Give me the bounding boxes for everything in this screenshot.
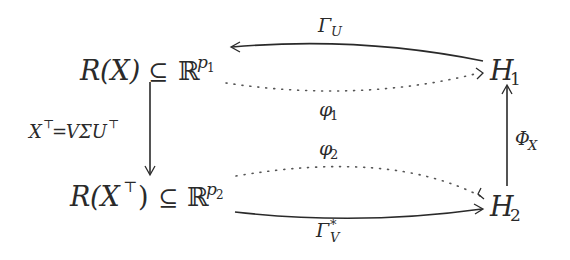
range-x-argument: (X — [90, 181, 122, 212]
svd-equals: = — [52, 121, 67, 142]
h-subscript: 1 — [510, 69, 521, 89]
script-r-symbol: R — [69, 181, 90, 212]
commutative-diagram: R (X) ⊆ ℝ p 1 R (X ⊤ ) ⊆ ℝ p 2 H 1 H 2 Γ… — [0, 0, 570, 260]
phi-x-subscript: X — [527, 138, 538, 153]
phi-subscript: 1 — [330, 108, 338, 123]
arrow-phi-x: Φ X — [502, 85, 538, 186]
arrowhead-tail-icon — [478, 188, 484, 199]
arrow-line — [236, 167, 480, 196]
subseteq-symbol: ⊆ — [148, 58, 168, 86]
script-r-symbol: R — [79, 55, 100, 86]
gamma-subscript: U — [331, 24, 343, 39]
arrowhead-right-icon — [476, 68, 483, 79]
gamma-subscript: V — [330, 230, 341, 245]
range-x-argument: (X) — [100, 55, 140, 86]
svd-rhs: VΣU — [66, 121, 108, 142]
node-h2: H 2 — [489, 191, 521, 225]
node-h1: H 1 — [489, 55, 521, 89]
node-range-x-transpose: R (X ⊤ ) ⊆ ℝ p 2 — [69, 178, 224, 212]
arrow-line — [226, 73, 479, 91]
gamma-symbol: Γ — [317, 14, 332, 36]
arrow-gamma-v-star: Γ V * — [235, 204, 483, 245]
transpose-symbol: ⊤ — [123, 178, 137, 196]
dimension-subscript: 2 — [216, 188, 224, 202]
svd-rhs-transpose: ⊤ — [108, 117, 119, 131]
node-range-x: R (X) ⊆ ℝ p 1 — [79, 52, 215, 86]
subseteq-symbol: ⊆ — [158, 184, 178, 212]
h-subscript: 2 — [510, 205, 521, 225]
dimension-subscript: 1 — [207, 61, 215, 75]
close-paren: ) — [138, 181, 149, 212]
arrow-gamma-u: Γ U — [231, 14, 483, 61]
svd-lhs: X — [27, 121, 43, 142]
arrow-phi1: φ 1 — [226, 68, 483, 123]
gamma-symbol: Γ — [315, 219, 330, 241]
phi-subscript: 2 — [330, 147, 338, 162]
gamma-adjoint-star: * — [330, 217, 337, 232]
arrow-phi2: φ 2 — [236, 137, 484, 199]
arrow-svd: X ⊤ = VΣU ⊤ — [27, 82, 155, 175]
arrow-line — [232, 44, 483, 61]
arrow-line — [235, 209, 482, 218]
